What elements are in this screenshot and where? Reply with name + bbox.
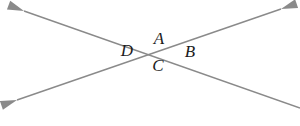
point-label-a: A <box>154 30 164 47</box>
intersecting-lines-diagram <box>0 0 300 126</box>
geometry-figure: A D B C <box>0 0 300 126</box>
point-label-c: C <box>152 57 163 74</box>
point-label-b: B <box>185 43 195 60</box>
point-label-d: D <box>121 42 133 59</box>
